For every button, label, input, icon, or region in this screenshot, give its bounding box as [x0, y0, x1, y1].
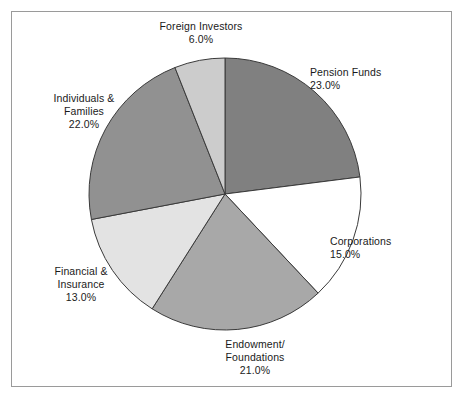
slice-label-individuals-families-name-2: Families	[24, 105, 144, 118]
pie-chart: Foreign Investors 6.0% Pension Funds 23.…	[0, 0, 465, 403]
slice-label-endowment-foundations-name-1: Endowment/	[180, 338, 330, 351]
slice-label-endowment-foundations-name-2: Foundations	[180, 351, 330, 364]
slice-label-endowment-foundations: Endowment/ Foundations 21.0%	[180, 338, 330, 377]
slice-label-individuals-families-value: 22.0%	[24, 118, 144, 131]
slice-label-pension-funds-value: 23.0%	[310, 79, 440, 92]
slice-label-individuals-families-name-1: Individuals &	[24, 92, 144, 105]
slice-label-corporations: Corporations 15.0%	[330, 235, 450, 261]
slice-label-financial-insurance: Financial & Insurance 13.0%	[22, 265, 140, 304]
slice-label-pension-funds-name: Pension Funds	[310, 66, 440, 79]
chart-page: Foreign Investors 6.0% Pension Funds 23.…	[0, 0, 465, 403]
slice-label-endowment-foundations-value: 21.0%	[180, 364, 330, 377]
slice-label-foreign-investors-value: 6.0%	[133, 33, 269, 46]
slice-label-corporations-name: Corporations	[330, 235, 450, 248]
slice-label-corporations-value: 15.0%	[330, 248, 450, 261]
slice-label-financial-insurance-name-1: Financial &	[22, 265, 140, 278]
slice-label-pension-funds: Pension Funds 23.0%	[310, 66, 440, 92]
slice-label-foreign-investors-name: Foreign Investors	[133, 20, 269, 33]
slice-label-financial-insurance-name-2: Insurance	[22, 278, 140, 291]
slice-label-financial-insurance-value: 13.0%	[22, 291, 140, 304]
slice-label-individuals-families: Individuals & Families 22.0%	[24, 92, 144, 131]
slice-label-foreign-investors: Foreign Investors 6.0%	[133, 20, 269, 46]
